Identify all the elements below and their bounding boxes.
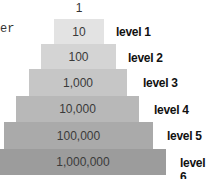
tier-label-3: level 3 <box>143 76 178 90</box>
pyramid-tier-5: 100,000 <box>4 122 153 149</box>
tier-label-6: level 6 <box>180 156 214 179</box>
tier-label-4: level 4 <box>154 103 189 117</box>
tier-value: 100,000 <box>57 129 100 143</box>
tier-value: 1,000,000 <box>56 155 109 169</box>
tier-label-1: level 1 <box>116 25 151 39</box>
pyramid-tier-4: 10,000 <box>16 96 139 122</box>
pyramid-tier-3: 1,000 <box>29 69 127 96</box>
tier-label-2: level 2 <box>128 51 163 65</box>
truncated-caption-text: er <box>0 22 14 36</box>
tier-value: 10 <box>72 25 85 39</box>
tier-value: 10,000 <box>59 102 96 116</box>
pyramid-tier-2: 100 <box>41 44 116 69</box>
pyramid-tier-1: 10 <box>54 19 104 44</box>
tier-value: 1,000 <box>63 76 93 90</box>
apex-value: 1 <box>54 1 104 15</box>
pyramid-tier-6: 1,000,000 <box>0 149 166 175</box>
tier-value: 100 <box>68 50 88 64</box>
tier-label-5: level 5 <box>167 129 202 143</box>
